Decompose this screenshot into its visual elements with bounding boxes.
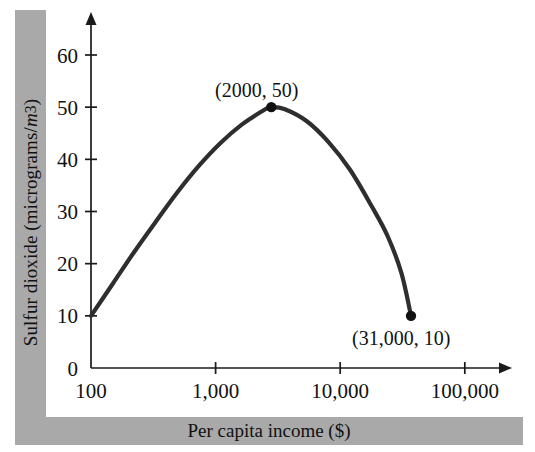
y-tick-label: 20 <box>57 252 78 276</box>
y-tick-label: 0 <box>68 357 79 381</box>
point-annotation: (2000, 50) <box>215 79 298 102</box>
x-tick-label: 100 <box>75 379 107 403</box>
data-series <box>91 107 411 316</box>
y-tick-label: 60 <box>57 44 78 68</box>
end-point <box>406 311 416 321</box>
x-axis: 1001,00010,000100,000 <box>75 362 512 403</box>
y-axis-arrowhead <box>86 12 97 25</box>
y-tick-label: 50 <box>57 96 78 120</box>
point-annotation: (31,000, 10) <box>352 327 450 350</box>
y-tick-label: 30 <box>57 200 78 224</box>
peak-point <box>266 102 276 112</box>
x-tick-label: 10,000 <box>311 379 369 403</box>
data-markers <box>266 102 416 321</box>
y-tick-label: 10 <box>57 304 78 328</box>
chart-figure: Sulfur dioxide (micrograms/m3) Per capit… <box>0 0 535 452</box>
y-tick-label: 40 <box>57 148 78 172</box>
x-tick-label: 1,000 <box>192 379 239 403</box>
x-tick-label: 100,000 <box>431 379 499 403</box>
chart-canvas: 0102030405060 1001,00010,000100,000 (200… <box>0 0 535 452</box>
y-axis: 0102030405060 <box>57 12 97 381</box>
series-line <box>91 107 411 316</box>
x-axis-arrowhead <box>499 363 512 374</box>
